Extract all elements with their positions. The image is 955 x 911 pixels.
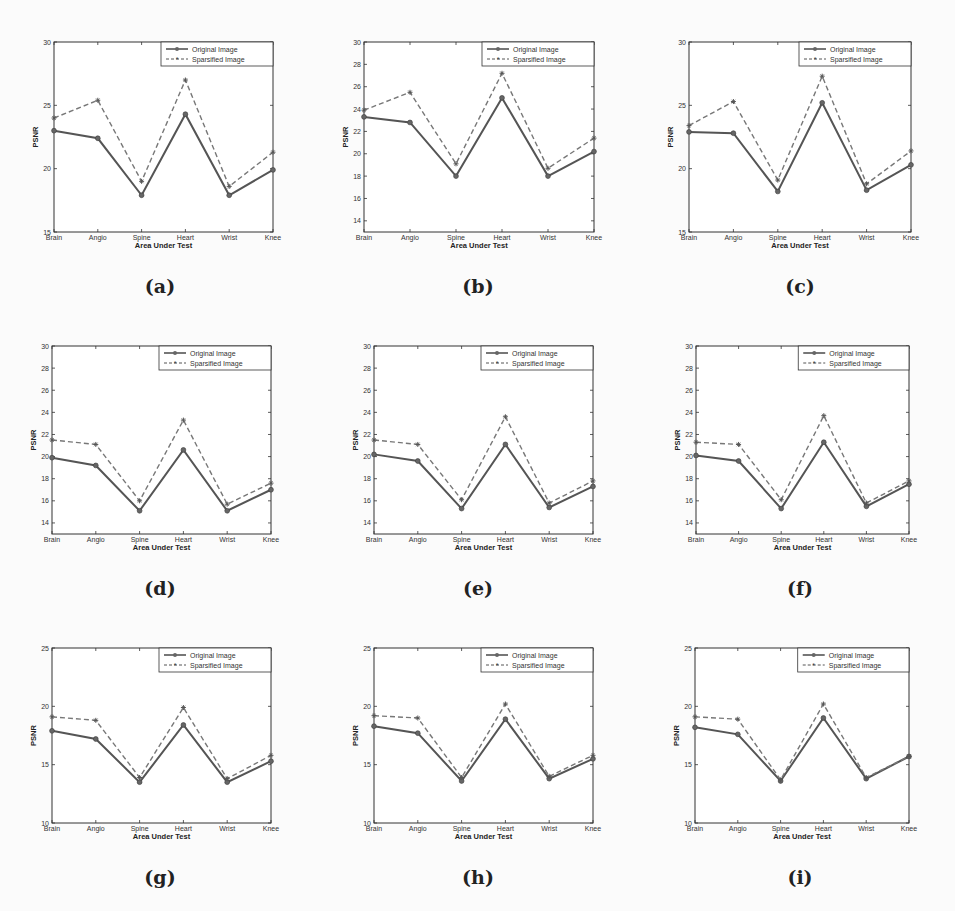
- x-tick-label: Knee: [263, 536, 279, 543]
- legend-entry-label: Original Image: [830, 46, 876, 54]
- y-tick-label: 20: [43, 165, 51, 172]
- data-point-asterisk-icon: [778, 777, 783, 782]
- data-point-asterisk-icon: [693, 714, 698, 719]
- x-axis-label: Area Under Test: [450, 241, 508, 250]
- x-tick-label: Knee: [901, 825, 917, 832]
- x-tick-label: Heart: [177, 234, 194, 241]
- data-point-circle-icon: [821, 440, 826, 445]
- x-tick-label: Heart: [815, 536, 832, 543]
- chart-panel-f: 141618202224262830BrainAngioSpineHeartWr…: [696, 346, 909, 534]
- legend-entry-label: Sparsified Image: [829, 662, 882, 670]
- chart-panel-i: 10152025BrainAngioSpineHeartWristKneeAre…: [695, 648, 909, 823]
- data-point-circle-icon: [454, 174, 459, 179]
- y-tick-label: 25: [43, 102, 51, 109]
- y-tick-label: 18: [41, 475, 49, 482]
- data-point-asterisk-icon: [694, 440, 699, 445]
- legend-entry-label: Sparsified Image: [512, 360, 565, 368]
- line-chart-svg: 15202530BrainAngioSpineHeartWristKneeAre…: [54, 42, 273, 232]
- data-point-asterisk-icon: [372, 713, 377, 718]
- data-point-circle-icon: [52, 128, 57, 133]
- data-point-asterisk-icon: [181, 418, 186, 423]
- x-tick-label: Heart: [175, 536, 192, 543]
- y-tick-label: 25: [41, 645, 49, 652]
- x-tick-label: Wrist: [541, 536, 557, 543]
- legend: Original Image*Sparsified Image: [482, 42, 594, 66]
- caption-h: (h): [462, 866, 494, 888]
- legend-entry-label: Original Image: [190, 350, 236, 358]
- data-point-circle-icon: [415, 731, 420, 736]
- svg-text:*: *: [814, 56, 817, 63]
- y-axis-label: PSNR: [351, 429, 360, 450]
- data-point-asterisk-icon: [547, 774, 552, 779]
- data-point-circle-icon: [500, 95, 505, 100]
- y-tick-label: 16: [353, 195, 361, 202]
- data-point-circle-icon: [864, 188, 869, 193]
- y-tick-label: 14: [41, 519, 49, 526]
- data-point-asterisk-icon: [864, 501, 869, 506]
- line-chart-svg: 141618202224262830BrainAngioSpineHeartWr…: [364, 42, 594, 232]
- y-tick-label: 30: [678, 39, 686, 46]
- data-point-asterisk-icon: [93, 442, 98, 447]
- x-tick-label: Wrist: [219, 825, 235, 832]
- y-tick-label: 25: [363, 645, 371, 652]
- data-point-asterisk-icon: [503, 414, 508, 419]
- caption-b: (b): [462, 275, 493, 297]
- data-point-circle-icon: [225, 508, 230, 513]
- data-point-circle-icon: [909, 162, 914, 167]
- data-point-asterisk-icon: [52, 116, 57, 121]
- x-axis-label: Area Under Test: [135, 241, 193, 250]
- caption-i: (i): [787, 866, 812, 888]
- y-tick-label: 25: [684, 645, 692, 652]
- legend-entry-label: Sparsified Image: [829, 360, 882, 368]
- plot-area: [689, 42, 911, 232]
- svg-text:*: *: [812, 662, 815, 669]
- legend-entry-label: Sparsified Image: [192, 56, 245, 64]
- y-axis-label: PSNR: [673, 429, 682, 450]
- data-point-asterisk-icon: [547, 501, 552, 506]
- x-tick-label: Wrist: [858, 536, 874, 543]
- legend-entry-label: Original Image: [512, 652, 558, 660]
- x-axis-label: Area Under Test: [133, 832, 191, 841]
- y-tick-label: 24: [353, 106, 361, 113]
- x-axis-label: Area Under Test: [455, 543, 513, 552]
- y-tick-label: 20: [353, 150, 361, 157]
- x-axis-label: Area Under Test: [771, 241, 829, 250]
- legend: Original Image*Sparsified Image: [799, 42, 911, 66]
- data-point-circle-icon: [50, 728, 55, 733]
- data-point-asterisk-icon: [546, 166, 551, 171]
- data-point-asterisk-icon: [225, 502, 230, 507]
- data-point-circle-icon: [93, 463, 98, 468]
- legend-entry-label: Original Image: [190, 652, 236, 660]
- y-tick-label: 24: [41, 409, 49, 416]
- data-point-asterisk-icon: [687, 123, 692, 128]
- plot-area: [52, 648, 271, 823]
- chart-panel-d: 141618202224262830BrainAngioSpineHeartWr…: [52, 346, 271, 534]
- legend-entry-label: Sparsified Image: [513, 56, 566, 64]
- x-tick-label: Angio: [409, 536, 427, 544]
- data-point-asterisk-icon: [181, 705, 186, 710]
- svg-text:*: *: [174, 662, 177, 669]
- data-point-circle-icon: [271, 168, 276, 173]
- line-chart-svg: 10152025BrainAngioSpineHeartWristKneeAre…: [374, 648, 593, 823]
- x-tick-label: Wrist: [540, 234, 556, 241]
- caption-a: (a): [145, 275, 175, 297]
- x-tick-label: Wrist: [221, 234, 237, 241]
- x-tick-label: Knee: [901, 536, 917, 543]
- data-point-circle-icon: [362, 114, 367, 119]
- x-tick-label: Brain: [681, 234, 697, 241]
- data-point-asterisk-icon: [907, 754, 912, 759]
- data-point-asterisk-icon: [503, 702, 508, 707]
- caption-e: (e): [463, 577, 493, 599]
- x-axis-label: Area Under Test: [455, 832, 513, 841]
- data-point-asterisk-icon: [415, 442, 420, 447]
- legend-entry-label: Original Image: [513, 46, 559, 54]
- x-axis-label: Area Under Test: [773, 832, 831, 841]
- y-tick-label: 15: [41, 761, 49, 768]
- x-tick-label: Knee: [586, 234, 602, 241]
- plot-area: [374, 346, 593, 534]
- data-point-circle-icon: [820, 100, 825, 105]
- data-point-circle-icon: [137, 508, 142, 513]
- x-tick-label: Angio: [730, 536, 748, 544]
- y-tick-label: 26: [685, 387, 693, 394]
- data-point-circle-icon: [731, 131, 736, 136]
